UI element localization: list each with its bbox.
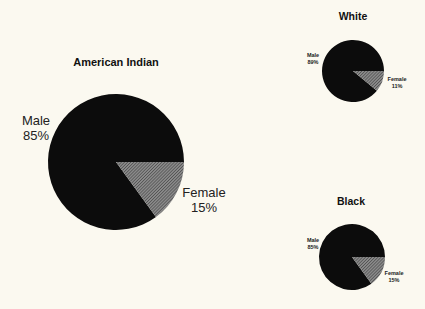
pie-white: White Male 89% Female 11%: [307, 10, 407, 102]
value-female-american-indian: 15%: [191, 200, 217, 215]
value-female-black: 15%: [388, 277, 399, 283]
chart-title-american-indian: American Indian: [73, 56, 159, 68]
pie-charts-canvas: American Indian Male 85% Female 15% Whit…: [0, 0, 425, 309]
value-male-american-indian: 85%: [23, 128, 49, 143]
value-male-black: 85%: [307, 244, 318, 250]
pie-chart-figure: American Indian Male 85% Female 15% Whit…: [0, 0, 425, 309]
label-male-black: Male: [307, 237, 319, 243]
value-male-white: 89%: [307, 59, 318, 65]
label-female-black: Female: [385, 270, 404, 276]
value-female-white: 11%: [392, 83, 403, 89]
label-female-white: Female: [388, 76, 407, 82]
label-female-american-indian: Female: [182, 185, 225, 200]
pie-black: Black Male 85% Female 15%: [307, 195, 404, 290]
chart-title-black: Black: [337, 195, 365, 207]
pie-american-indian: American Indian Male 85% Female 15%: [22, 56, 226, 230]
chart-title-white: White: [339, 10, 368, 22]
label-male-american-indian: Male: [22, 113, 50, 128]
label-male-white: Male: [307, 52, 319, 58]
